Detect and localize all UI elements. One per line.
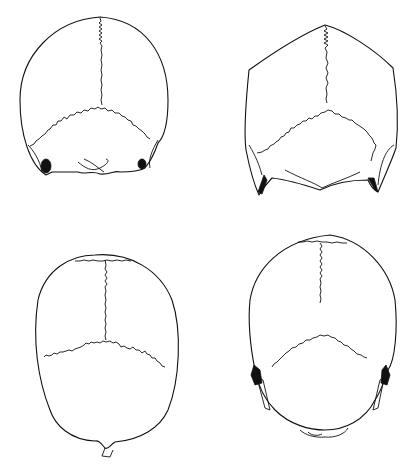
skull-illustration-figure xyxy=(0,0,417,464)
